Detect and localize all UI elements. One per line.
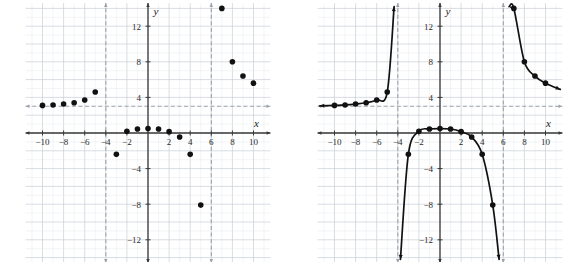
data-point [40,103,46,109]
horizontal-asymptote-arrowhead [26,105,30,108]
data-point [458,129,464,135]
x-axis-arrowhead [559,131,563,134]
data-point [406,152,412,158]
curve-arrowhead [399,255,403,260]
data-point [71,100,77,106]
data-point [114,152,120,158]
x-tick-label: −10 [327,137,342,147]
data-point [187,152,193,158]
x-tick-label: 10 [541,137,551,147]
y-tick-label: 12 [424,22,433,32]
data-point [416,128,422,134]
data-point [427,126,433,132]
data-point [166,129,172,135]
x-tick-label: −8 [59,137,69,147]
horizontal-asymptote-arrowhead [267,105,271,108]
y-tick-label: −4 [131,164,141,174]
y-tick-label: −8 [131,200,141,210]
x-tick-label: −6 [80,137,90,147]
data-point [511,6,517,12]
data-point [353,101,359,107]
x-tick-label: −10 [35,137,50,147]
data-point [177,134,183,140]
x-axis-arrowhead [26,131,30,134]
data-point [145,126,151,132]
data-point [469,134,475,140]
x-tick-label: −2 [122,137,132,147]
x-tick-label: −4 [101,137,111,147]
y-tick-label: 8 [137,57,142,67]
data-point [124,128,130,134]
data-point [522,59,528,65]
data-point [479,152,485,158]
y-tick-label: −12 [419,235,433,245]
x-tick-label: 2 [459,137,464,147]
x-axis-label: x [253,117,259,129]
x-tick-label: −2 [414,137,424,147]
data-point [61,101,67,107]
y-axis-arrowhead [438,3,441,7]
x-tick-label: 10 [249,137,259,147]
data-point [374,97,380,103]
horizontal-asymptote-arrowhead [559,105,563,108]
data-point [82,97,88,103]
x-tick-label: 8 [230,137,235,147]
x-tick-label: 4 [188,137,193,147]
x-axis-arrowhead [267,131,271,134]
curve-arrowhead [392,7,396,12]
data-point [543,80,549,86]
vertical-asymptote-arrowhead [210,3,213,7]
vertical-asymptote-arrowhead [502,3,505,7]
data-point [363,100,369,106]
curve-branch [320,7,396,108]
figure-container: xy−10−8−6−4−22468101284−4−8−12 xy−10−8−6… [0,0,583,262]
y-axis-label: y [153,5,159,17]
data-point [92,89,98,95]
vertical-asymptote-arrowhead [396,3,399,7]
data-point [240,73,246,79]
data-point [437,126,443,132]
data-point [50,102,56,108]
data-point [532,73,538,79]
x-tick-label: 6 [501,137,506,147]
x-tick-label: 8 [522,137,527,147]
vertical-asymptote-arrowhead [104,3,107,7]
y-tick-label: 4 [429,93,434,103]
data-point [490,202,496,208]
curve-plot-svg: xy−10−8−6−4−22468101284−4−8−12 [292,0,583,262]
x-tick-label: −4 [393,137,403,147]
data-point [332,103,338,109]
data-point [198,202,204,208]
data-point [448,126,454,132]
y-tick-label: −12 [127,235,141,245]
y-axis-label: y [445,5,451,17]
y-tick-label: 8 [429,57,434,67]
data-point [230,59,236,65]
data-point [251,80,257,86]
x-tick-label: 4 [480,137,485,147]
right-panel-curve-graph: xy−10−8−6−4−22468101284−4−8−12 [292,0,583,262]
y-axis-arrowhead [146,3,149,7]
left-panel-scatter-graph: xy−10−8−6−4−22468101284−4−8−12 [0,0,291,262]
x-tick-label: −8 [351,137,361,147]
y-tick-label: 4 [137,93,142,103]
x-tick-label: −6 [372,137,382,147]
x-axis-label: x [545,117,551,129]
scatter-plot-svg: xy−10−8−6−4−22468101284−4−8−12 [0,0,291,262]
data-point [156,126,162,132]
y-tick-label: −4 [423,164,433,174]
data-point [219,6,225,12]
x-tick-label: 2 [167,137,172,147]
curve-path [320,7,394,106]
x-tick-label: 6 [209,137,214,147]
data-point [342,102,348,108]
x-axis-arrowhead [318,131,322,134]
y-tick-label: −8 [423,200,433,210]
y-tick-label: 12 [132,22,141,32]
data-point [384,89,390,95]
data-point [135,126,141,132]
